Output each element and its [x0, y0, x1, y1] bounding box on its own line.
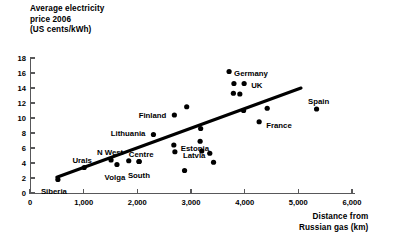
- data-point: [265, 106, 270, 111]
- data-point: [241, 108, 246, 113]
- scatter-plot: 01,0002,0003,0004,0005,0006,000 02468101…: [0, 0, 398, 244]
- data-point: [108, 157, 113, 162]
- y-tick-label: 6: [22, 144, 26, 153]
- data-point: [137, 159, 142, 164]
- data-point-label: South: [128, 171, 150, 180]
- data-point: [237, 91, 242, 96]
- x-tick-label: 4,000: [235, 198, 254, 207]
- y-tick-label: 12: [18, 99, 26, 108]
- data-point: [82, 165, 87, 170]
- data-point: [231, 81, 236, 86]
- y-tick-label: 10: [18, 114, 26, 123]
- data-point: [172, 112, 177, 117]
- data-point-label: Germany: [234, 69, 268, 78]
- y-tick-label: 16: [18, 69, 26, 78]
- data-point: [211, 160, 216, 165]
- data-point-label: Centre: [129, 150, 154, 159]
- data-point: [314, 106, 319, 111]
- x-tick-label: 5,000: [289, 198, 308, 207]
- x-tick-label: 0: [28, 198, 32, 207]
- x-tick-label: 6,000: [342, 198, 361, 207]
- data-point: [151, 132, 156, 137]
- y-tick-label: 4: [22, 159, 27, 168]
- data-point: [198, 126, 203, 131]
- data-point: [242, 81, 247, 86]
- axes-group: [30, 57, 355, 194]
- data-point: [171, 142, 176, 147]
- x-tick-group: 01,0002,0003,0004,0005,0006,000: [28, 189, 362, 207]
- data-point-label: N West: [97, 148, 124, 157]
- data-point-label: Urals: [72, 156, 92, 165]
- trend-line: [57, 88, 301, 177]
- data-point-label: UK: [251, 81, 263, 90]
- x-tick-label: 2,000: [128, 198, 147, 207]
- data-point-label: France: [266, 121, 292, 130]
- data-point-label-group: SiberiaUralsN WestVolgaSouthCentreLithua…: [41, 69, 330, 196]
- y-tick-group: 024681012141618: [18, 54, 35, 198]
- x-tick-label: 1,000: [74, 198, 93, 207]
- y-tick-label: 14: [18, 84, 27, 93]
- y-tick-label: 8: [22, 129, 26, 138]
- data-point: [184, 104, 189, 109]
- data-point-label: Finland: [139, 111, 167, 120]
- chart-figure: Average electricity price 2006 (US cents…: [0, 0, 398, 244]
- data-point: [227, 69, 232, 74]
- y-tick-label: 18: [18, 54, 26, 63]
- data-point-label: Siberia: [41, 187, 68, 196]
- x-tick-label: 3,000: [181, 198, 200, 207]
- data-point: [231, 91, 236, 96]
- data-point: [55, 177, 60, 182]
- y-tick-label: 2: [22, 174, 26, 183]
- data-point-label: Spain: [308, 97, 329, 106]
- data-point-label: Latvia: [183, 151, 206, 160]
- data-point: [172, 149, 177, 154]
- y-tick-label: 0: [22, 189, 26, 198]
- trend-line-group: [57, 88, 301, 177]
- data-point-label: Lithuania: [111, 129, 146, 138]
- data-point: [257, 119, 262, 124]
- data-point: [182, 168, 187, 173]
- data-point: [114, 162, 119, 167]
- data-point-label: Volga: [105, 173, 126, 182]
